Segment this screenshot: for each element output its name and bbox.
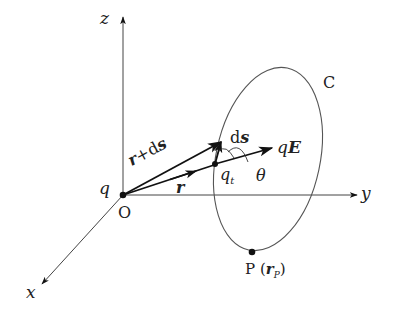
x-axis-label: x: [26, 284, 36, 301]
x-axis: [42, 195, 123, 284]
point-p-name: P: [245, 260, 255, 278]
vector-ds-label: ds: [230, 130, 249, 146]
test-charge-label: qt: [220, 167, 234, 186]
y-axis-label: y: [361, 185, 371, 202]
qE-E: E: [288, 137, 301, 157]
origin-point: [120, 192, 127, 199]
angle-theta-label: θ: [256, 168, 266, 184]
point-p-label: P (rP): [245, 262, 286, 280]
point-p-close: ): [280, 260, 286, 278]
ds-d: d: [230, 128, 240, 147]
curve-c-label: C: [323, 75, 335, 91]
test-charge-q: q: [220, 165, 230, 184]
origin-label: O: [118, 205, 131, 221]
ds-s: s: [240, 128, 249, 147]
z-axis-label: z: [100, 10, 109, 27]
test-charge-point: [212, 161, 218, 167]
qE-q: q: [277, 137, 288, 157]
point-p: [249, 249, 256, 256]
vector-qE-label: qE: [277, 139, 301, 156]
test-charge-subscript: t: [230, 175, 234, 186]
angle-arc: [219, 149, 234, 158]
source-charge-label: q: [99, 180, 110, 197]
vector-r-label: r: [176, 180, 184, 196]
point-p-vec: r: [266, 260, 274, 278]
vector-qE: [215, 148, 272, 164]
diagram-canvas: [0, 0, 393, 320]
curve-c: [198, 57, 338, 261]
